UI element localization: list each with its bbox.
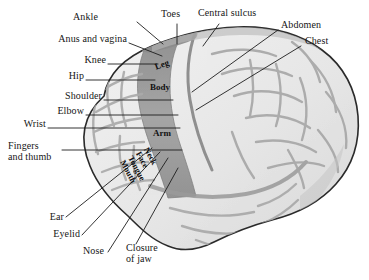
callout-ankle: Ankle (46, 12, 98, 23)
callout-wrist: Wrist (4, 119, 46, 130)
callout-abdomen: Abdomen (281, 20, 341, 31)
callout-anus-and-vagina: Anus and vagina (39, 34, 127, 45)
callout-ear: Ear (28, 212, 64, 223)
callout-knee: Knee (58, 55, 106, 66)
callout-closure-of-jaw: Closure of jaw (126, 243, 188, 264)
callout-central-sulcus: Central sulcus (198, 8, 282, 19)
brain-motor-homunculus-figure: Ankle Toes Central sulcus Abdomen Anus a… (0, 0, 369, 280)
callout-elbow: Elbow (36, 106, 84, 117)
leader-ankle (137, 22, 163, 44)
callout-fingers-and-thumb: Fingers and thumb (8, 141, 68, 162)
callout-hip: Hip (46, 71, 84, 82)
region-label-body: Body (150, 82, 170, 92)
callout-nose: Nose (58, 246, 104, 257)
callout-chest: Chest (305, 36, 353, 47)
callout-eyelid: Eyelid (28, 229, 80, 240)
region-label-arm: Arm (153, 128, 171, 138)
callout-shoulder: Shoulder (38, 91, 102, 102)
callout-toes: Toes (161, 9, 201, 20)
